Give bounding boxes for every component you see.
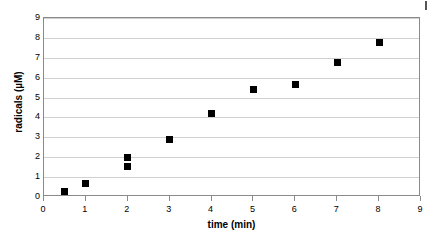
x-axis-tick-mark [127, 196, 128, 201]
x-axis-tick-label: 7 [326, 205, 346, 214]
y-axis-tick-labels: 0123456789 [16, 17, 40, 196]
data-point-marker [124, 163, 131, 170]
y-axis-tick-label: 9 [20, 13, 40, 22]
x-axis-tick-label: 8 [368, 205, 388, 214]
y-axis-tick-label: 1 [20, 172, 40, 181]
x-axis-tick-label: 6 [284, 205, 304, 214]
x-axis-tick-mark [252, 196, 253, 201]
x-axis-tick-label: 5 [242, 205, 262, 214]
x-axis-tick-label: 4 [201, 205, 221, 214]
y-axis-tick-label: 7 [20, 53, 40, 62]
gridline-horizontal [44, 58, 419, 59]
x-axis-tick-label: 3 [159, 205, 179, 214]
scatter-chart-figure: radicals (µM) 0123456789 0123456789 time… [0, 0, 436, 241]
gridline-horizontal [44, 38, 419, 39]
gridline-horizontal [44, 117, 419, 118]
x-axis-tick-mark [378, 196, 379, 201]
x-axis-tick-mark [169, 196, 170, 201]
data-point-marker [250, 86, 257, 93]
x-axis-tick-mark [336, 196, 337, 201]
gridline-horizontal [44, 78, 419, 79]
x-axis-tick-label: 0 [33, 205, 53, 214]
data-point-marker [292, 81, 299, 88]
data-point-marker [166, 136, 173, 143]
gridline-horizontal [44, 98, 419, 99]
x-axis-tick-label: 1 [75, 205, 95, 214]
y-axis-tick-label: 0 [20, 192, 40, 201]
x-axis-tick-mark [43, 196, 44, 201]
plot-area [43, 17, 420, 196]
y-axis-tick-label: 2 [20, 152, 40, 161]
x-axis-tick-mark [211, 196, 212, 201]
y-axis-tick-label: 5 [20, 93, 40, 102]
gridline-horizontal [44, 137, 419, 138]
gridline-horizontal [44, 157, 419, 158]
x-axis-tick-label: 9 [410, 205, 430, 214]
data-point-marker [208, 110, 215, 117]
data-point-marker [376, 39, 383, 46]
y-axis-tick-label: 8 [20, 33, 40, 42]
scan-artifact-mark [425, 1, 427, 10]
x-axis-tick-labels: 0123456789 [43, 196, 420, 218]
data-point-marker [124, 154, 131, 161]
x-axis-tick-mark [420, 196, 421, 201]
y-axis-tick-label: 3 [20, 132, 40, 141]
x-axis-tick-mark [85, 196, 86, 201]
x-axis-title: time (min) [43, 219, 420, 231]
x-axis-tick-mark [294, 196, 295, 201]
y-axis-tick-label: 6 [20, 73, 40, 82]
data-point-marker [334, 59, 341, 66]
y-axis-tick-label: 4 [20, 112, 40, 121]
data-point-marker [82, 180, 89, 187]
gridline-horizontal [44, 177, 419, 178]
x-axis-tick-label: 2 [117, 205, 137, 214]
gridline-horizontal [44, 18, 419, 19]
data-point-marker [61, 188, 68, 195]
